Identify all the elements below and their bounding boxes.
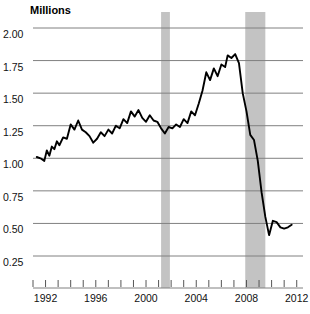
- y-tick-label-1.25: 1.25: [3, 127, 30, 138]
- y-tick-label-0.75: 0.75: [3, 192, 30, 203]
- chart-container: Millions 0.250.500.751.001.251.501.752.0…: [0, 0, 310, 314]
- y-tick-label-2.00: 2.00: [3, 29, 30, 40]
- x-tick-label-1992: 1992: [26, 292, 66, 304]
- recession-band-0: [161, 12, 170, 288]
- x-tick-label-2000: 2000: [126, 292, 166, 304]
- y-tick-label-1.00: 1.00: [3, 159, 30, 170]
- x-tick-label-1996: 1996: [76, 292, 116, 304]
- chart-plot-area: [0, 0, 310, 314]
- y-tick-label-0.50: 0.50: [3, 224, 30, 235]
- y-tick-label-1.75: 1.75: [3, 62, 30, 73]
- x-tick-label-2012: 2012: [277, 292, 310, 304]
- x-tick-label-2008: 2008: [226, 292, 266, 304]
- x-tick-label-2004: 2004: [176, 292, 216, 304]
- y-tick-label-1.50: 1.50: [3, 94, 30, 105]
- y-tick-label-0.25: 0.25: [3, 257, 30, 268]
